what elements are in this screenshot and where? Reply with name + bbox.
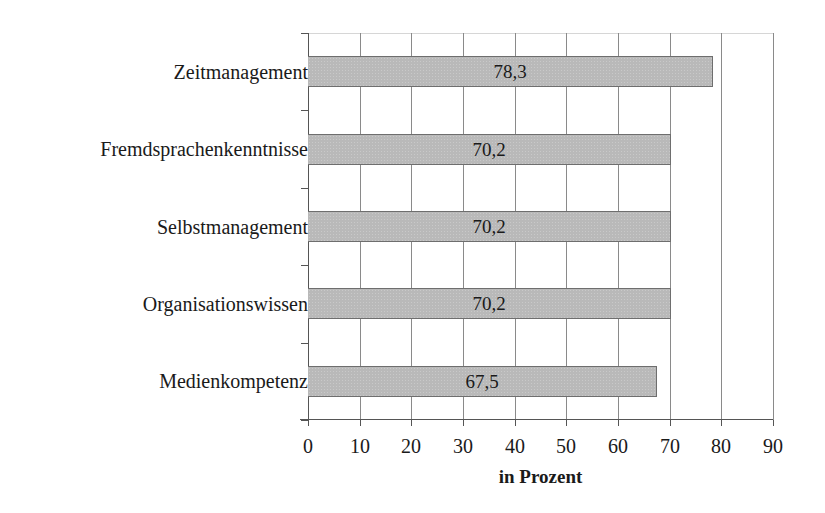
x-tick-60 bbox=[618, 420, 619, 426]
x-tick-label: 30 bbox=[443, 435, 483, 458]
x-tick-70 bbox=[670, 420, 671, 426]
category-label: Fremdsprachenkenntnisse bbox=[100, 137, 308, 161]
x-tick-label: 70 bbox=[650, 435, 690, 458]
bar-organisationswissen: 70,2 bbox=[308, 288, 671, 319]
y-tick bbox=[301, 265, 308, 266]
x-tick-label: 50 bbox=[546, 435, 586, 458]
x-tick-label: 40 bbox=[495, 435, 535, 458]
bar-zeitmanagement: 78,3 bbox=[308, 56, 713, 87]
y-tick bbox=[301, 33, 308, 34]
x-axis-line bbox=[300, 419, 773, 420]
bar-value-label: 70,2 bbox=[472, 139, 505, 161]
category-label: Medienkompetenz bbox=[159, 369, 308, 393]
x-tick-10 bbox=[360, 420, 361, 426]
plot-top-border bbox=[308, 33, 773, 34]
y-tick bbox=[301, 110, 308, 111]
category-label: Selbstmanagement bbox=[157, 215, 308, 239]
bar-value-label: 70,2 bbox=[472, 293, 505, 315]
bar-value-label: 70,2 bbox=[472, 216, 505, 238]
x-tick-label: 80 bbox=[701, 435, 741, 458]
y-tick bbox=[301, 188, 308, 189]
horizontal-bar-chart: 78,370,270,270,267,5 ZeitmanagementFremd… bbox=[0, 0, 825, 513]
x-tick-label: 10 bbox=[340, 435, 380, 458]
x-tick-0 bbox=[308, 420, 309, 426]
y-tick bbox=[301, 420, 308, 421]
x-tick-label: 20 bbox=[391, 435, 431, 458]
x-tick-20 bbox=[411, 420, 412, 426]
bar-medienkompetenz: 67,5 bbox=[308, 366, 657, 397]
bar-selbstmanagement: 70,2 bbox=[308, 211, 671, 242]
x-tick-90 bbox=[773, 420, 774, 426]
x-tick-50 bbox=[566, 420, 567, 426]
x-axis-title: in Prozent bbox=[308, 466, 773, 488]
x-tick-label: 0 bbox=[288, 435, 328, 458]
plot-area: 78,370,270,270,267,5 bbox=[308, 33, 773, 420]
x-tick-label: 90 bbox=[753, 435, 793, 458]
x-tick-30 bbox=[463, 420, 464, 426]
category-label: Zeitmanagement bbox=[174, 60, 308, 84]
y-tick bbox=[301, 343, 308, 344]
x-tick-80 bbox=[721, 420, 722, 426]
category-label: Organisationswissen bbox=[143, 292, 308, 316]
x-tick-40 bbox=[515, 420, 516, 426]
gridline-x-90 bbox=[773, 33, 774, 420]
x-tick-label: 60 bbox=[598, 435, 638, 458]
bar-value-label: 67,5 bbox=[465, 371, 498, 393]
bar-value-label: 78,3 bbox=[493, 61, 526, 83]
gridline-x-80 bbox=[721, 33, 722, 420]
bar-fremdsprachenkenntnisse: 70,2 bbox=[308, 134, 671, 165]
